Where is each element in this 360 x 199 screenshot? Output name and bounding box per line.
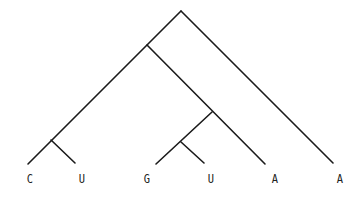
tree-edge xyxy=(181,142,204,163)
leaf-label-g: G xyxy=(144,172,150,185)
tree-edge xyxy=(156,112,212,164)
leaf-label-u: U xyxy=(79,172,85,185)
leaf-label-c: C xyxy=(27,172,33,185)
leaf-label-a: A xyxy=(337,172,343,185)
tree-diagram xyxy=(0,0,360,199)
leaf-label-u: U xyxy=(208,172,214,185)
tree-edge xyxy=(147,45,265,164)
leaf-label-a: A xyxy=(272,172,278,185)
tree-edge xyxy=(181,11,333,163)
tree-edge xyxy=(51,140,75,163)
